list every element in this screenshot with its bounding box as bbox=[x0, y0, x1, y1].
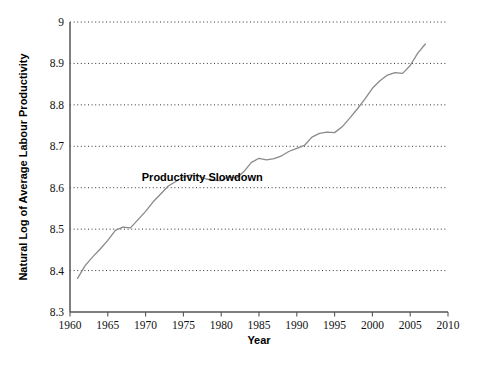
x-tick-label: 1960 bbox=[59, 319, 82, 331]
x-tick-label: 1995 bbox=[323, 319, 346, 331]
x-tick-label: 1975 bbox=[172, 319, 195, 331]
x-tick-label: 1965 bbox=[96, 319, 119, 331]
x-axis bbox=[70, 312, 448, 317]
y-axis-title: Natural Log of Average Labour Productivi… bbox=[17, 53, 29, 281]
chart-annotations: Productivity Slowdown bbox=[142, 171, 263, 183]
x-tick-label: 2005 bbox=[399, 319, 422, 331]
x-tick-labels: 1960196519701975198019851990199520002005… bbox=[59, 319, 460, 331]
y-tick-label: 9 bbox=[58, 16, 64, 28]
y-tick-label: 8.7 bbox=[50, 140, 65, 152]
x-tick-label: 2000 bbox=[361, 319, 384, 331]
y-tick-labels: 8.38.48.58.68.78.88.99 bbox=[50, 16, 65, 318]
gridlines bbox=[70, 22, 448, 271]
y-tick-label: 8.5 bbox=[50, 223, 65, 235]
line-chart: 8.38.48.58.68.78.88.99 19601965197019751… bbox=[0, 0, 486, 374]
x-axis-title: Year bbox=[247, 334, 271, 346]
y-tick-label: 8.6 bbox=[50, 182, 65, 194]
y-tick-label: 8.3 bbox=[50, 306, 65, 318]
data-series-line bbox=[78, 44, 426, 278]
annotation-productivity-slowdown: Productivity Slowdown bbox=[142, 171, 263, 183]
x-tick-label: 1985 bbox=[248, 319, 271, 331]
y-tick-label: 8.8 bbox=[50, 99, 65, 111]
x-tick-label: 1990 bbox=[285, 319, 308, 331]
y-tick-label: 8.9 bbox=[50, 57, 65, 69]
x-tick-label: 1980 bbox=[210, 319, 233, 331]
y-tick-label: 8.4 bbox=[50, 265, 65, 277]
x-tick-label: 1970 bbox=[134, 319, 157, 331]
chart-container: 8.38.48.58.68.78.88.99 19601965197019751… bbox=[0, 0, 486, 374]
series-line bbox=[78, 44, 426, 278]
x-tick-label: 2010 bbox=[437, 319, 460, 331]
